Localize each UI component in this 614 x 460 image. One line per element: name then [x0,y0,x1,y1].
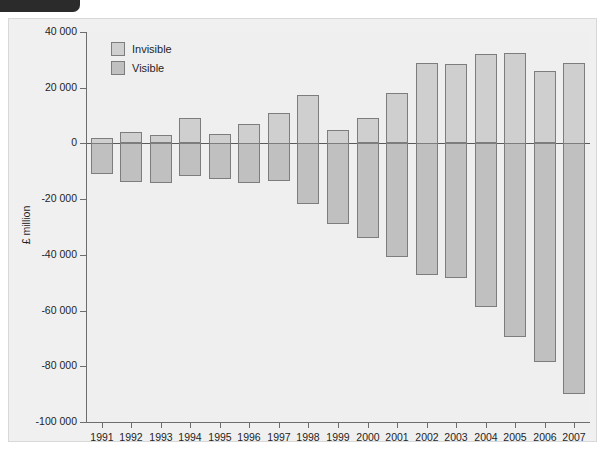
y-tick [80,143,87,144]
bar [504,53,526,144]
x-tick [279,422,280,428]
bar [120,143,142,182]
x-tick [249,422,250,428]
bar [386,93,408,143]
x-tick [220,422,221,428]
bar [327,143,349,224]
bar [179,118,201,143]
x-tick [368,422,369,428]
bar [150,143,172,183]
bar [268,143,290,181]
x-tick [131,422,132,428]
bar [357,143,379,238]
bar [475,143,497,307]
y-tick-label: -80 000 [11,359,77,371]
bar [357,118,379,143]
x-tick-label: 2001 [380,431,414,443]
x-tick [397,422,398,428]
y-tick-label: 0 [11,136,77,148]
y-tick [80,88,87,89]
y-tick-label: 20 000 [11,81,77,93]
y-tick-label: 40 000 [11,25,77,37]
bar [416,63,438,144]
bar [327,130,349,144]
y-axis-line [86,32,87,423]
bar [534,71,556,143]
y-tick [80,311,87,312]
y-tick [80,255,87,256]
x-tick [190,422,191,428]
y-axis-title: £ million [20,180,32,270]
bar [475,54,497,143]
x-tick [427,422,428,428]
bar [297,143,319,204]
bar [297,95,319,144]
x-tick [161,422,162,428]
corner-tab [0,0,80,12]
bar [563,143,585,394]
chart-legend: InvisibleVisible [111,42,172,75]
x-tick-label: 2005 [498,431,532,443]
chart-figure: 40 00020 0000-20 000-40 000-60 000-80 00… [0,0,614,460]
bar [563,63,585,144]
bar [504,143,526,337]
legend-item-visible[interactable]: Visible [111,61,172,75]
x-tick-label: 1999 [321,431,355,443]
x-tick-label: 1994 [173,431,207,443]
bar [534,143,556,362]
x-tick [545,422,546,428]
bar [120,132,142,143]
bar [238,143,260,183]
x-tick [102,422,103,428]
x-tick-label: 1992 [114,431,148,443]
x-tick [456,422,457,428]
y-tick-label: -60 000 [11,304,77,316]
legend-label-invisible: Invisible [132,43,172,55]
legend-swatch-visible [111,61,125,75]
y-tick-label: -100 000 [11,415,77,427]
bar [268,113,290,144]
bar [91,143,113,174]
bar [209,143,231,179]
bar [445,64,467,143]
x-tick-label: 2007 [557,431,591,443]
y-tick [80,422,87,423]
x-tick [515,422,516,428]
y-tick [80,32,87,33]
x-tick-label: 1996 [232,431,266,443]
x-tick [308,422,309,428]
legend-item-invisible[interactable]: Invisible [111,42,172,56]
bar [150,135,172,143]
y-tick [80,366,87,367]
bar [386,143,408,257]
y-tick [80,199,87,200]
legend-label-visible: Visible [132,62,164,74]
x-tick-label: 1998 [291,431,325,443]
x-tick-label: 2003 [439,431,473,443]
x-tick [486,422,487,428]
bar [179,143,201,176]
legend-swatch-invisible [111,42,125,56]
bar [238,124,260,144]
bar [445,143,467,278]
x-tick [338,422,339,428]
x-tick [574,422,575,428]
bar [416,143,438,275]
chart-frame: 40 00020 0000-20 000-40 000-60 000-80 00… [8,18,597,442]
